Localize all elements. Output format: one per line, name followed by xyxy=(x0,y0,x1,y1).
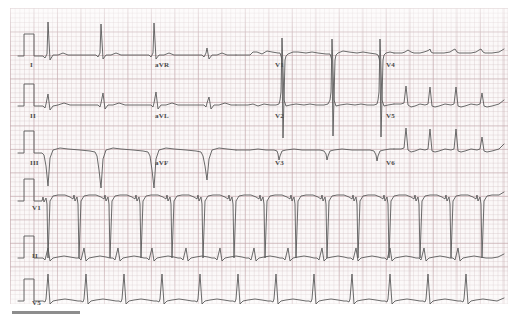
trace-lead-aVL xyxy=(236,38,394,106)
lead-label-V3: V3 xyxy=(275,160,284,167)
trace-rhythm-V1 xyxy=(18,179,504,258)
lead-label-V4: V4 xyxy=(386,62,395,69)
trace-rhythm-II xyxy=(18,236,504,261)
ecg-screenshot: I aVR V1 V4 II aVL V2 V5 III aVF V3 V6 V… xyxy=(0,0,517,323)
trace-lead-I xyxy=(18,22,236,60)
trace-lead-V1 xyxy=(394,49,504,53)
trace-lead-V2 xyxy=(394,86,504,107)
bottom-rule-bar xyxy=(12,311,80,314)
trace-rhythm-V5 xyxy=(18,274,504,304)
lead-label-aVL: aVL xyxy=(155,113,169,120)
lead-label-rhythm-V5: V5 xyxy=(32,300,41,307)
lead-label-V5: V5 xyxy=(386,113,395,120)
ecg-trace-layer xyxy=(10,8,508,304)
trace-lead-V3 xyxy=(394,128,504,152)
lead-label-rhythm-II: II xyxy=(32,253,38,260)
lead-label-aVR: aVR xyxy=(155,62,169,69)
lead-label-II: II xyxy=(30,113,36,120)
lead-label-I: I xyxy=(30,62,33,69)
trace-lead-aVF xyxy=(236,149,394,161)
trace-lead-II xyxy=(18,84,236,110)
lead-label-V6: V6 xyxy=(386,160,395,167)
lead-label-aVF: aVF xyxy=(155,160,168,167)
trace-lead-aVR xyxy=(236,51,394,138)
lead-label-V2: V2 xyxy=(275,113,284,120)
lead-label-III: III xyxy=(30,160,39,167)
lead-label-rhythm-V1: V1 xyxy=(32,205,41,212)
trace-lead-III xyxy=(18,131,236,188)
lead-label-V1: V1 xyxy=(275,62,284,69)
